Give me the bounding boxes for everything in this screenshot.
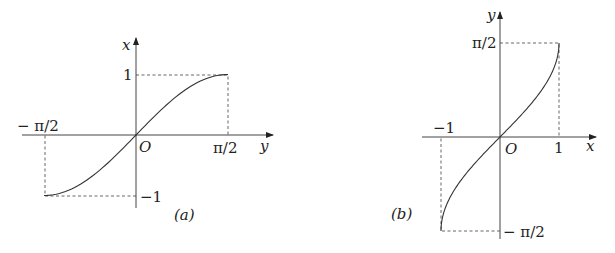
origin-label-a: O [139, 138, 151, 156]
guide-bottom-left [45, 135, 136, 196]
horizontal-axis-label-b: x [586, 137, 595, 155]
diagram-canvas: x 1 −1 − π/2 π/2 y O (a) y π/2 − π/2 −1 … [0, 0, 615, 253]
figure-b: y π/2 − π/2 −1 1 x O (b) [391, 6, 596, 241]
tick-label-neg-pi-half-a: − π/2 [17, 117, 59, 135]
horizontal-axis-label-a: y [259, 137, 269, 155]
tick-label-neg-pi-half-b: − π/2 [503, 223, 545, 241]
figure-a: x 1 −1 − π/2 π/2 y O (a) [17, 36, 273, 224]
guide-top-right [136, 75, 228, 135]
tick-label-1-a: 1 [123, 66, 133, 84]
guide-top-right-b [500, 43, 559, 137]
tick-label-pi-half-a: π/2 [213, 139, 237, 157]
vertical-axis-label-a: x [122, 36, 131, 54]
tick-label-neg1-b: −1 [433, 119, 455, 137]
guide-bottom-left-b [441, 137, 500, 231]
vertical-axis-label-b: y [486, 6, 496, 24]
origin-label-b: O [505, 140, 517, 158]
tick-label-pi-half-b: π/2 [472, 34, 496, 52]
tick-label-neg1-a: −1 [140, 188, 162, 206]
caption-b: (b) [391, 205, 412, 223]
caption-a: (a) [174, 206, 195, 224]
tick-label-1-b: 1 [554, 139, 564, 157]
